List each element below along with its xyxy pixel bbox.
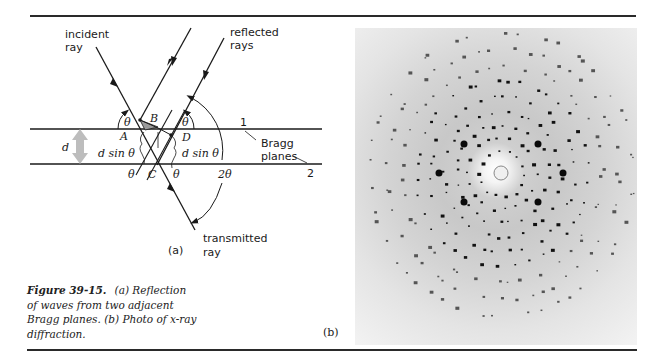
label-transmitted: transmitted <box>203 232 267 245</box>
label-point-a: A <box>119 130 128 143</box>
reflected-ray-2 <box>157 38 224 165</box>
bottom-rule <box>27 349 637 351</box>
label-point-d: D <box>181 131 191 144</box>
sublabel-b: (b) <box>323 326 339 339</box>
reflected-ray-1 <box>140 28 191 120</box>
label-two-theta: 2θ <box>217 168 232 181</box>
label-planes: planes <box>261 150 298 163</box>
incident-ray <box>96 47 195 230</box>
label-theta-bottom-left: θ <box>128 168 135 181</box>
figure-caption: Figure 39-15.(a) Reflection of waves fro… <box>27 283 207 341</box>
spacing-arrow-icon <box>72 129 88 164</box>
label-d: d <box>62 141 69 154</box>
label-plane-2: 2 <box>307 167 314 180</box>
label-point-b: B <box>149 112 158 125</box>
label-plane-1: 1 <box>240 116 247 129</box>
label-bragg: Bragg <box>261 137 294 150</box>
label-dsin-right: d sin θ <box>182 147 219 160</box>
diffraction-photo <box>355 28 637 345</box>
diffraction-spots <box>355 28 637 345</box>
label-theta-right: θ <box>182 116 189 129</box>
figure-number: Figure 39-15. <box>27 284 107 296</box>
sublabel-a: (a) <box>168 244 183 257</box>
label-reflected: reflected <box>230 26 279 39</box>
label-point-c: C <box>148 168 157 181</box>
label-reflected-rays: rays <box>230 39 254 52</box>
label-transmitted-ray: ray <box>203 246 221 259</box>
label-incident-ray: ray <box>65 41 83 54</box>
bragg-diagram: incident ray reflected rays transmitted … <box>0 0 340 280</box>
label-incident: incident <box>65 28 110 41</box>
label-theta-left: θ <box>124 116 131 129</box>
label-dsin-left: d sin θ <box>98 147 135 160</box>
label-theta-bottom-right: θ <box>173 168 180 181</box>
